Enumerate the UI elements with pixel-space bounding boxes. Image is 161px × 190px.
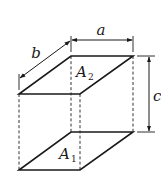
label-b: b (31, 44, 41, 62)
prism-diagram: a b c A 2 A 1 (0, 0, 161, 190)
label-a1-subscript: 1 (71, 154, 77, 164)
label-a2-subscript: 2 (88, 72, 94, 82)
label-a: a (97, 21, 106, 39)
dim-b-arrow (20, 41, 70, 78)
label-a2: A (74, 63, 87, 81)
label-c: c (153, 87, 161, 105)
bottom-face-a1 (19, 132, 133, 170)
label-a1: A (57, 145, 70, 163)
